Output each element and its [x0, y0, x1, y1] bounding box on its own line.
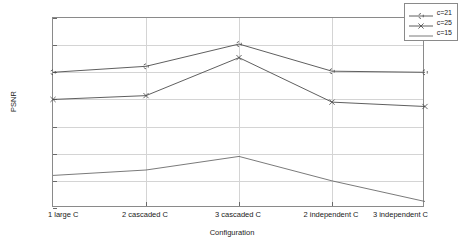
- legend-sample-icon: [408, 17, 434, 27]
- x-axis-title: Configuration: [0, 228, 464, 237]
- legend-item-c25[interactable]: c=25: [408, 17, 452, 27]
- plot-area: [52, 17, 424, 207]
- x-tick-label: 2 cascaded C: [122, 210, 168, 219]
- y-tick-mark: [53, 208, 57, 209]
- data-point-marker: [236, 55, 241, 60]
- legend-item-c15[interactable]: c=15: [408, 27, 452, 37]
- x-tick-label: 1 large C: [48, 210, 78, 219]
- legend-label: c=15: [437, 29, 452, 36]
- legend-box: c=21c=25c=15: [404, 3, 458, 41]
- legend-item-c21[interactable]: c=21: [408, 7, 452, 17]
- legend-sample-icon: [408, 7, 434, 17]
- x-tick-label: 3 cascaded C: [215, 210, 261, 219]
- figure-canvas: PSNR Configuration c=21c=25c=15 4848.549…: [0, 0, 464, 239]
- series-line-c25: [53, 58, 425, 107]
- series-line-c15: [53, 156, 425, 201]
- legend-label: c=25: [437, 19, 452, 26]
- data-series-layer: [53, 18, 425, 208]
- x-tick-label: 2 independent C: [303, 210, 358, 219]
- y-axis-title: PSNR: [9, 91, 18, 112]
- x-tick-label: 3 independent C: [373, 210, 428, 219]
- legend-sample-icon: [408, 27, 434, 37]
- legend-label: c=21: [437, 9, 452, 16]
